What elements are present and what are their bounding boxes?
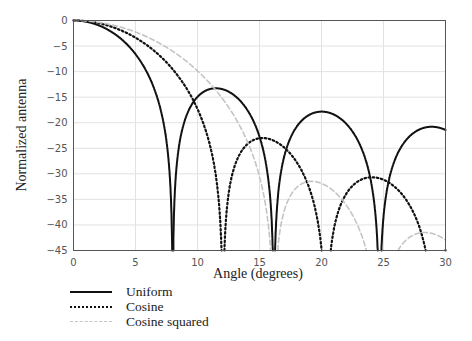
series-line-uniform	[382, 127, 446, 251]
y-tick-label: −15	[46, 92, 67, 103]
series-line-cosine-squared	[278, 181, 367, 250]
x-tick-label: 25	[377, 257, 390, 268]
legend: Uniform Cosine Cosine squared	[70, 284, 209, 329]
legend-item-cosine: Cosine	[70, 299, 209, 314]
x-tick-label: 5	[132, 257, 138, 268]
y-axis-label: Normalized antenna	[14, 78, 29, 192]
tick-labels: 0510152025300−5−10−15−20−25−30−35−40−45	[46, 15, 451, 268]
series-line-cosine	[331, 177, 426, 250]
y-tick-label: −25	[46, 143, 67, 154]
legend-label: Cosine	[126, 299, 164, 315]
legend-item-cosine-squared: Cosine squared	[70, 314, 209, 329]
y-tick-label: −10	[46, 66, 67, 77]
y-tick-label: 0	[61, 15, 67, 26]
x-tick-label: 10	[191, 257, 204, 268]
solid-line-icon	[70, 291, 112, 293]
dashed-line-icon	[70, 321, 112, 322]
y-tick-label: −35	[46, 194, 67, 205]
y-tick-label: −30	[46, 168, 67, 179]
x-axis-label: Angle (degrees)	[213, 266, 303, 282]
x-tick-label: 20	[315, 257, 328, 268]
x-tick-label: 0	[70, 257, 76, 268]
x-tick-label: 30	[439, 257, 452, 268]
y-tick-label: −5	[53, 41, 68, 52]
y-tick-label: −20	[46, 117, 67, 128]
dotted-line-icon	[70, 306, 112, 308]
legend-label: Cosine squared	[126, 314, 209, 330]
legend-item-uniform: Uniform	[70, 284, 209, 299]
legend-label: Uniform	[126, 284, 173, 300]
series-line-cosine	[74, 21, 222, 251]
y-tick-label: −45	[46, 245, 67, 256]
y-tick-label: −40	[46, 219, 67, 230]
series-line-uniform	[275, 112, 378, 251]
